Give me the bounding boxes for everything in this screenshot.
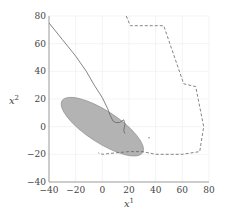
y-axis-label: x2 bbox=[9, 94, 19, 106]
y-tick-label: 20 bbox=[35, 94, 47, 104]
x-tick-label: 20 bbox=[123, 185, 135, 195]
x-tick-label: 60 bbox=[177, 185, 189, 195]
chart: −40−20020406080−40−20020406080 x1 x2 bbox=[0, 0, 225, 219]
x-tick-label: 40 bbox=[150, 185, 162, 195]
y-tick-label: 80 bbox=[35, 11, 47, 21]
y-tick-label: 0 bbox=[40, 122, 46, 132]
y-tick-label: 60 bbox=[35, 39, 47, 49]
y-tick-label: −20 bbox=[27, 149, 46, 159]
y-tick-label: −40 bbox=[27, 177, 46, 187]
y-tick-label: 40 bbox=[35, 66, 47, 76]
tick-labels: −40−20020406080−40−20020406080 bbox=[27, 11, 215, 195]
x-tick-label: −20 bbox=[66, 185, 85, 195]
marker-point bbox=[148, 137, 150, 139]
x-tick-label: 80 bbox=[203, 185, 215, 195]
x-axis-label: x1 bbox=[124, 197, 134, 209]
x-tick-label: 0 bbox=[99, 185, 105, 195]
